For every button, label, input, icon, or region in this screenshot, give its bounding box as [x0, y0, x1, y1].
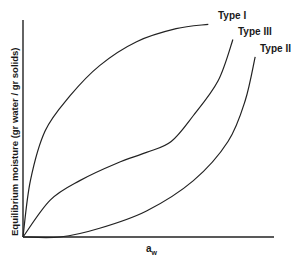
label-type-ii: Type II — [260, 43, 291, 54]
label-type-iii: Type III — [238, 26, 272, 37]
y-axis-label: Equilibrium moisture (gr water / gr soli… — [9, 48, 20, 236]
x-axis-label-sub: w — [151, 249, 158, 256]
curve-type-ii — [23, 57, 255, 238]
curve-type-i — [23, 24, 208, 237]
sorption-isotherm-chart: Type I Type III Type II Equilibrium mois… — [0, 0, 302, 260]
curve-type-iii — [23, 40, 233, 238]
x-axis-label: aw — [146, 243, 158, 256]
label-type-i: Type I — [218, 10, 246, 21]
